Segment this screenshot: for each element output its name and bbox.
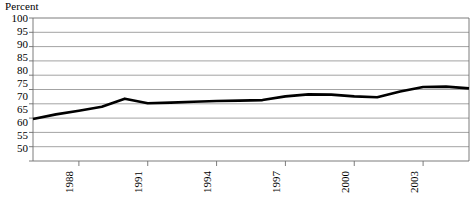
x-axis-ticks <box>79 161 423 166</box>
line-chart: Percent 100 95 90 85 80 75 70 65 60 55 5… <box>0 0 476 203</box>
data-line-percent <box>33 87 469 119</box>
plot-area <box>0 0 476 203</box>
y-axis-ticks <box>29 18 33 161</box>
